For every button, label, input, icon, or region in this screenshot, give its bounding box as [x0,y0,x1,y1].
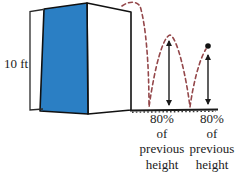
building-height-label: 10 ft [4,56,29,71]
bounce2-label: 80% of previous height [190,111,235,172]
bounce1-label-line3: previous [140,141,185,156]
diagram-canvas: 10 ft 80% of previous height 80% of prev… [0,0,243,179]
ball-trajectory-dashed-path [122,2,206,107]
bouncing-ball-figure: 10 ft 80% of previous height 80% of prev… [0,0,243,179]
bounce1-label: 80% of previous height [140,111,185,172]
bounce2-label-line1: 80% [200,111,224,126]
bounce1-label-line2: of [157,126,169,141]
bounce2-label-line2: of [207,126,219,141]
bounce1-label-line4: height [146,157,179,172]
ball-icon [205,43,211,49]
building-front-face [40,3,88,114]
bounce1-label-line1: 80% [150,111,174,126]
bounce2-label-line4: height [196,157,229,172]
bounce2-label-line3: previous [190,141,235,156]
building-side-face [87,3,131,114]
building [40,3,131,114]
